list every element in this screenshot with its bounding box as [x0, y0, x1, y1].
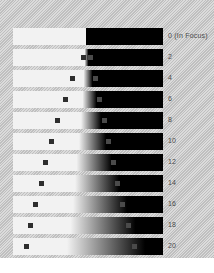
row-axis-label: 20	[168, 242, 176, 250]
gradient-bar	[13, 217, 163, 234]
chart-canvas: 0 (In Focus)2468101214161820	[0, 0, 214, 273]
gradient-row	[13, 91, 163, 108]
blur-extent-marker-left	[49, 139, 54, 144]
blur-extent-marker-left	[55, 118, 60, 123]
gradient-row	[13, 238, 163, 255]
blur-extent-marker-left	[33, 202, 38, 207]
row-axis-label: 18	[168, 221, 176, 229]
gradient-bar	[13, 238, 163, 255]
gradient-row	[13, 49, 163, 66]
blur-extent-marker-right	[106, 139, 111, 144]
gradient-row	[13, 196, 163, 213]
gradient-row	[13, 28, 163, 45]
gradient-row	[13, 175, 163, 192]
row-axis-label: 2	[168, 53, 172, 61]
blur-extent-marker-right	[88, 55, 93, 60]
blur-extent-marker-right	[120, 202, 125, 207]
blur-extent-marker-right	[102, 118, 107, 123]
gradient-bar	[13, 175, 163, 192]
row-axis-label: 12	[168, 158, 176, 166]
row-axis-label: 6	[168, 95, 172, 103]
row-axis-label: 16	[168, 200, 176, 208]
gradient-row	[13, 70, 163, 87]
gradient-bar	[13, 28, 163, 45]
blur-extent-marker-right	[97, 97, 102, 102]
blur-extent-marker-left	[43, 160, 48, 165]
gradient-bar	[13, 133, 163, 150]
row-axis-label: 0 (In Focus)	[168, 32, 208, 40]
blur-extent-marker-left	[28, 223, 33, 228]
blur-extent-marker-right	[115, 181, 120, 186]
blur-extent-marker-left	[39, 181, 44, 186]
gradient-bar	[13, 91, 163, 108]
row-axis-label: 14	[168, 179, 176, 187]
gradient-row	[13, 112, 163, 129]
gradient-row	[13, 217, 163, 234]
blur-extent-marker-right	[126, 223, 131, 228]
blur-extent-marker-left	[24, 244, 29, 249]
blur-extent-marker-left	[70, 76, 75, 81]
row-axis-label: 4	[168, 74, 172, 82]
gradient-bar	[13, 112, 163, 129]
row-axis-label: 8	[168, 116, 172, 124]
gradient-bar	[13, 70, 163, 87]
gradient-row	[13, 133, 163, 150]
gradient-row-list: 0 (In Focus)2468101214161820	[0, 0, 214, 273]
blur-extent-marker-left	[81, 55, 86, 60]
gradient-bar	[13, 154, 163, 171]
row-axis-label: 10	[168, 137, 176, 145]
blur-extent-marker-right	[93, 76, 98, 81]
blur-extent-marker-right	[111, 160, 116, 165]
blur-extent-marker-right	[132, 244, 137, 249]
blur-extent-marker-left	[63, 97, 68, 102]
gradient-row	[13, 154, 163, 171]
